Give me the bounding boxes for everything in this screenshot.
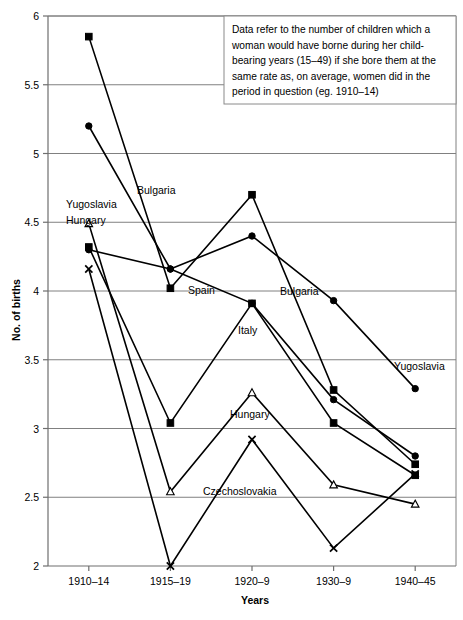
series-inline-labels: YugoslaviaHungaryBulgariaSpainBulgariaIt… [66, 184, 445, 497]
marker-square [330, 420, 337, 427]
series-spain [86, 247, 419, 460]
marker-circle [86, 123, 92, 129]
x-axis-ticks: 1910–141915–191920–91930–91940–45 [68, 566, 435, 587]
marker-square [249, 191, 256, 198]
marker-circle [330, 297, 336, 303]
marker-square [249, 300, 256, 307]
series-label: Hungary [230, 408, 270, 420]
marker-square [86, 33, 93, 40]
marker-square [167, 420, 174, 427]
x-axis-title: Years [241, 594, 269, 606]
annotation-box: Data refer to the number of children whi… [224, 16, 456, 104]
series-label: Hungary [66, 214, 106, 226]
y-tick-label: 3.5 [24, 354, 39, 366]
y-axis-title: No. of births [10, 279, 22, 341]
x-tick-label: 1940–45 [395, 575, 436, 587]
series-yugoslavia [86, 123, 419, 392]
y-tick-label: 5.5 [24, 79, 39, 91]
annotation-line: same rate as, on average, women did in t… [232, 71, 431, 82]
series-label: Spain [188, 284, 215, 296]
x-tick-label: 1915–19 [150, 575, 191, 587]
marker-square [167, 285, 174, 292]
x-tick-label: 1930–9 [316, 575, 351, 587]
series-line [89, 126, 415, 389]
series-italy [86, 244, 419, 479]
marker-circle [412, 385, 418, 391]
annotation-line: bearing years (15–49) if she bore them a… [232, 55, 436, 66]
series-label: Yugoslavia [66, 198, 117, 210]
y-tick-label: 5 [33, 148, 39, 160]
series-hungary [85, 220, 419, 508]
y-tick-label: 3 [33, 423, 39, 435]
marker-square [330, 387, 337, 394]
series-line [89, 247, 415, 475]
annotation-line: woman would have borne during her child- [231, 40, 424, 51]
annotation-line: period in question (eg. 1910–14) [232, 86, 379, 97]
y-axis-ticks: 22.533.544.555.56 [24, 10, 48, 572]
chart-page: 22.533.544.555.56 1910–141915–191920–919… [0, 0, 463, 620]
marker-x [248, 436, 255, 443]
chart-figure: 22.533.544.555.56 1910–141915–191920–919… [0, 0, 463, 620]
marker-circle [249, 233, 255, 239]
y-tick-label: 2.5 [24, 491, 39, 503]
marker-square [86, 244, 93, 251]
series-label: Czechoslovakia [203, 485, 277, 497]
x-tick-label: 1920–9 [234, 575, 269, 587]
series-line [89, 224, 415, 505]
y-tick-label: 6 [33, 10, 39, 22]
marker-triangle [248, 389, 256, 396]
marker-circle [167, 266, 173, 272]
marker-x [330, 545, 337, 552]
series-label: Bulgaria [137, 184, 176, 196]
series-label: Bulgaria [280, 285, 319, 297]
births-line-chart: 22.533.544.555.56 1910–141915–191920–919… [0, 0, 463, 620]
series-label: Italy [238, 324, 258, 336]
series-label: Yugoslavia [394, 360, 445, 372]
marker-square [412, 461, 419, 468]
x-tick-label: 1910–14 [68, 575, 109, 587]
y-tick-label: 2 [33, 560, 39, 572]
marker-circle [412, 453, 418, 459]
y-tick-label: 4 [33, 285, 39, 297]
annotation-line: Data refer to the number of children whi… [232, 24, 431, 35]
marker-circle [330, 396, 336, 402]
y-tick-label: 4.5 [24, 216, 39, 228]
